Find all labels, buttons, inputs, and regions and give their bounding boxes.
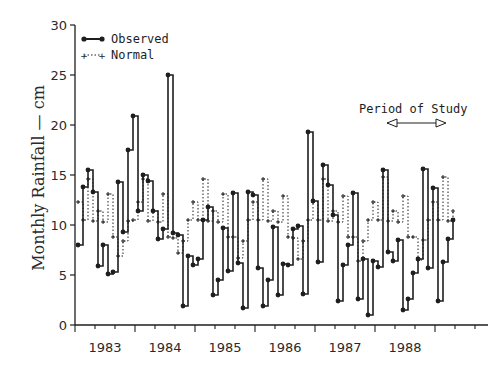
x-tick-label: 1985 (208, 340, 241, 355)
period-of-study-annotation: Period of Study (359, 102, 467, 127)
legend-observed-label: Observed (111, 32, 169, 46)
period-of-study-label: Period of Study (359, 102, 467, 116)
legend-observed-swatch (81, 36, 104, 41)
legend-normal-label: Normal (111, 48, 154, 62)
rainfall-chart: 051015202530 198319841985198619871988 Mo… (0, 0, 493, 365)
y-tick-label: 5 (59, 268, 67, 283)
x-tick-label: 1984 (148, 340, 181, 355)
y-tick-label: 30 (50, 18, 67, 33)
x-tick-label: 1987 (328, 340, 361, 355)
y-tick-label: 10 (50, 218, 67, 233)
y-tick-label: 15 (50, 168, 67, 183)
x-tick-label: 1988 (388, 340, 421, 355)
y-axis-title: Monthly Rainfall — cm (29, 85, 48, 271)
legend-normal-swatch: + + (80, 51, 106, 61)
svg-text:+: + (98, 51, 106, 61)
legend: Observed + + Normal (80, 32, 169, 62)
double-arrow-icon (387, 119, 446, 127)
y-axis: 051015202530 (50, 18, 75, 333)
x-tick-label: 1986 (268, 340, 301, 355)
x-axis: 198319841985198619871988 (75, 325, 488, 355)
svg-text:+: + (80, 51, 88, 61)
y-tick-label: 0 (59, 318, 67, 333)
y-tick-label: 25 (50, 68, 67, 83)
x-tick-label: 1983 (88, 340, 121, 355)
y-tick-label: 20 (50, 118, 67, 133)
